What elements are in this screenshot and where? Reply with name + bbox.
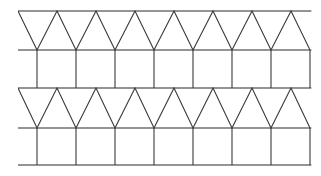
left-edge-mask — [0, 0, 18, 176]
tessellation-figure — [0, 0, 321, 176]
tessellation-canvas — [0, 0, 321, 176]
right-edge-mask — [312, 0, 321, 176]
